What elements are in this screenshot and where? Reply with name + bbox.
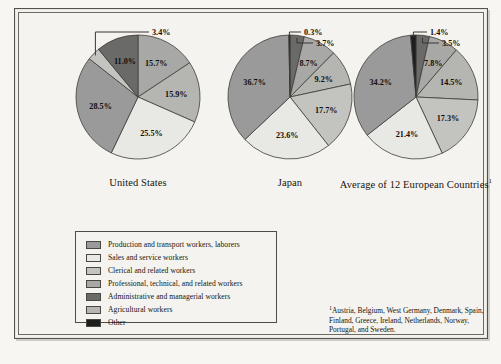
legend-item-label: Other	[108, 318, 126, 327]
chart-block-europe: 3.5%7.8%14.5%17.3%21.4%34.2%1.4% Average…	[337, 19, 495, 190]
pie-callout-label: 3.7%	[316, 39, 334, 48]
pie-callout-label: 1.4%	[430, 28, 448, 37]
legend-swatch	[86, 267, 101, 275]
pie-slice-label: 15.9%	[165, 90, 188, 99]
chart-caption-europe-text: Average of 12 European Countries	[340, 179, 489, 190]
pie-chart-europe: 3.5%7.8%14.5%17.3%21.4%34.2%1.4%	[337, 19, 495, 174]
legend-swatch	[86, 293, 101, 301]
legend-item: Clerical and related workers	[86, 264, 276, 277]
pie-wrap-united-states: 15.7%15.9%25.5%28.5%3.4%11.0%	[63, 19, 213, 174]
chart-caption-europe: Average of 12 European Countries1	[337, 177, 495, 190]
chart-block-united-states: 15.7%15.9%25.5%28.5%3.4%11.0% United Sta…	[63, 19, 213, 188]
pie-slice-label: 36.7%	[243, 78, 266, 87]
pie-charts-row: 15.7%15.9%25.5%28.5%3.4%11.0% United Sta…	[19, 19, 483, 209]
pie-slice-label: 7.8%	[424, 59, 442, 68]
pie-slice-label: 21.4%	[396, 130, 419, 139]
pie-chart-united-states: 15.7%15.9%25.5%28.5%3.4%11.0%	[63, 19, 213, 174]
pie-slice-label: 15.7%	[145, 59, 168, 68]
legend-item-label: Agricultural workers	[108, 305, 172, 314]
figure-frame: 15.7%15.9%25.5%28.5%3.4%11.0% United Sta…	[14, 8, 488, 339]
figure-inner-border: 15.7%15.9%25.5%28.5%3.4%11.0% United Sta…	[18, 12, 484, 335]
legend-swatch	[86, 280, 101, 288]
pie-callout-label: 3.4%	[152, 28, 170, 37]
pie-slice-label: 17.7%	[315, 106, 338, 115]
legend-item-label: Production and transport workers, labore…	[108, 240, 240, 249]
legend: Production and transport workers, labore…	[75, 231, 277, 323]
scanned-page: 15.7%15.9%25.5%28.5%3.4%11.0% United Sta…	[0, 0, 501, 364]
legend-item-label: Sales and service workers	[108, 253, 188, 262]
footnote: 1Austria, Belgium, West Germany, Denmark…	[329, 305, 497, 335]
pie-slice-label: 9.2%	[314, 75, 332, 84]
legend-item-label: Administrative and managerial workers	[108, 292, 230, 301]
pie-callout-label: 0.3%	[304, 28, 322, 37]
pie-slice-label: 25.5%	[140, 129, 163, 138]
legend-item-label: Clerical and related workers	[108, 266, 195, 275]
pie-slice-label: 34.2%	[369, 78, 392, 87]
legend-item: Administrative and managerial workers	[86, 290, 276, 303]
footnote-text: Austria, Belgium, West Germany, Denmark,…	[329, 306, 484, 334]
pie-wrap-europe: 3.5%7.8%14.5%17.3%21.4%34.2%1.4%	[337, 19, 495, 174]
legend-swatch	[86, 254, 101, 262]
pie-slice-label: 17.3%	[437, 114, 460, 123]
legend-swatch	[86, 306, 101, 314]
legend-swatch	[86, 241, 101, 249]
chart-caption-europe-footnote-marker: 1	[489, 177, 493, 185]
below-figure-caption	[16, 349, 476, 362]
legend-swatch	[86, 319, 101, 327]
pie-slice-label: 23.6%	[276, 131, 299, 140]
pie-slice-label: 14.5%	[440, 78, 463, 87]
legend-item: Agricultural workers	[86, 303, 276, 316]
pie-slice-label: 11.0%	[114, 57, 136, 66]
legend-item: Sales and service workers	[86, 251, 276, 264]
legend-list: Production and transport workers, labore…	[76, 238, 276, 329]
chart-caption-united-states: United States	[63, 177, 213, 188]
pie-slice-label: 28.5%	[89, 102, 112, 111]
legend-item: Other	[86, 316, 276, 329]
legend-item: Production and transport workers, labore…	[86, 238, 276, 251]
legend-item-label: Professional, technical, and related wor…	[108, 279, 243, 288]
legend-item: Professional, technical, and related wor…	[86, 277, 276, 290]
pie-slice-label: 8.7%	[299, 59, 317, 68]
pie-callout-label: 3.5%	[442, 39, 460, 48]
